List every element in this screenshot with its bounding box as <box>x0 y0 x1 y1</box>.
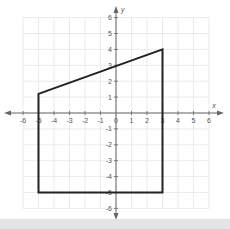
y-tick-label: -3 <box>106 157 112 164</box>
y-axis-up-arrow-icon <box>114 6 119 13</box>
y-tick-label: -6 <box>106 205 112 212</box>
x-tick-label: -2 <box>82 117 88 124</box>
tick-labels: -6-5-4-3-2-10123456654321-1-2-3-4-5-6xy <box>20 6 216 212</box>
coordinate-plane: -6-5-4-3-2-10123456654321-1-2-3-4-5-6xy <box>0 0 230 229</box>
x-tick-label: -3 <box>66 117 72 124</box>
x-tick-label: -1 <box>97 117 103 124</box>
x-tick-label: 0 <box>114 117 118 124</box>
x-axis-left-arrow-icon <box>4 111 11 116</box>
axes <box>4 6 224 220</box>
y-tick-label: 4 <box>108 46 112 53</box>
x-tick-label: 2 <box>145 117 149 124</box>
x-tick-label: 6 <box>207 117 211 124</box>
x-tick-label: 4 <box>176 117 180 124</box>
y-tick-label: 6 <box>108 14 112 21</box>
y-tick-label: -1 <box>106 125 112 132</box>
x-axis-right-arrow-icon <box>217 111 224 116</box>
x-tick-label: 1 <box>130 117 134 124</box>
x-axis-label: x <box>211 102 216 109</box>
y-tick-label: 5 <box>108 30 112 37</box>
y-axis-label: y <box>120 6 125 14</box>
y-tick-label: -2 <box>106 141 112 148</box>
y-tick-label: 1 <box>108 94 112 101</box>
x-tick-label: 5 <box>192 117 196 124</box>
x-tick-label: -4 <box>51 117 57 124</box>
plot-svg: -6-5-4-3-2-10123456654321-1-2-3-4-5-6xy <box>0 0 230 229</box>
bottom-band <box>0 219 230 229</box>
y-tick-label: 2 <box>108 78 112 85</box>
x-tick-label: -6 <box>20 117 26 124</box>
y-tick-label: -4 <box>106 173 112 180</box>
